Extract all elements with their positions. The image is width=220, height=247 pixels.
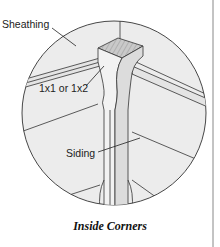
figure-page: Sheathing 1x1 or 1x2 Siding Inside Corne…	[0, 0, 220, 247]
figure-caption: Inside Corners	[0, 219, 220, 234]
label-sheathing: Sheathing	[2, 19, 49, 30]
label-siding: Siding	[66, 148, 95, 159]
label-corner-strip: 1x1 or 1x2	[39, 83, 88, 94]
inside-corner-illustration	[0, 0, 220, 247]
